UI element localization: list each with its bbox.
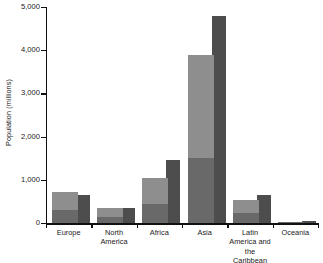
bar-back — [121, 208, 135, 223]
bar-front-lower-segment — [142, 204, 168, 223]
x-label-line: Europe — [46, 228, 91, 237]
x-axis-labels: EuropeNorthAmericaAfricaAsiaLatinAmerica… — [46, 228, 318, 263]
bar-group — [91, 7, 136, 223]
bar-front — [142, 178, 168, 223]
y-tick-label: 1,000 — [21, 176, 40, 184]
x-tick-mark — [318, 223, 319, 228]
bar-back — [257, 195, 271, 223]
y-axis-tick-labels: 01,0002,0003,0004,0005,000 — [0, 7, 40, 223]
bar-group — [182, 7, 227, 223]
bar-front — [52, 192, 78, 223]
plot-area — [46, 7, 318, 223]
x-label-line: Africa — [137, 228, 182, 237]
bar-group — [46, 7, 91, 223]
bar-front — [233, 200, 259, 223]
x-axis-label: Asia — [182, 228, 227, 237]
bar-group — [273, 7, 318, 223]
x-label-line: America — [91, 237, 136, 246]
bar-front-lower-segment — [52, 210, 78, 223]
x-label-line: Asia — [182, 228, 227, 237]
y-tick-label: 2,000 — [21, 133, 40, 141]
x-label-line: North — [91, 228, 136, 237]
bar-front-lower-segment — [188, 158, 214, 223]
x-label-line: Oceania — [273, 228, 318, 237]
y-tick-label: 5,000 — [21, 3, 40, 11]
bar-back — [212, 16, 226, 223]
x-label-line: America and — [227, 237, 272, 246]
y-tick-label: 4,000 — [21, 46, 40, 54]
y-tick-label: 0 — [36, 219, 40, 227]
bar-back — [166, 160, 180, 223]
bar-group — [137, 7, 182, 223]
population-bar-chart: Population (millions) 01,0002,0003,0004,… — [0, 0, 323, 263]
bar-front — [97, 208, 123, 223]
bar-group — [227, 7, 272, 223]
bar-front-lower-segment — [278, 222, 304, 223]
x-axis-label: Africa — [137, 228, 182, 237]
bar-front — [188, 55, 214, 223]
x-axis-label: Oceania — [273, 228, 318, 237]
y-tick-label: 3,000 — [21, 89, 40, 97]
bar-back — [76, 195, 90, 223]
x-label-line: Latin — [227, 228, 272, 237]
bar-front-lower-segment — [97, 217, 123, 223]
x-axis-label: Europe — [46, 228, 91, 237]
bar-front-lower-segment — [233, 213, 259, 223]
x-axis-label: LatinAmerica andthe Caribbean — [227, 228, 272, 263]
bar-front — [278, 222, 304, 224]
x-axis-label: NorthAmerica — [91, 228, 136, 247]
x-label-line: the Caribbean — [227, 247, 272, 263]
bar-back — [302, 221, 316, 223]
